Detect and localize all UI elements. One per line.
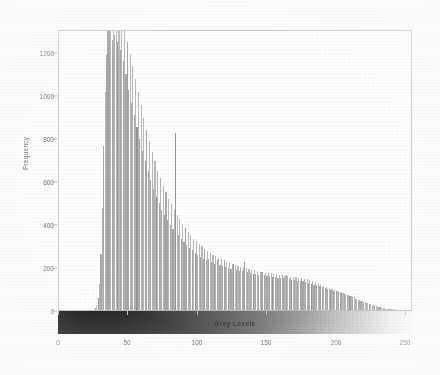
x-tick-mark-200 — [336, 311, 337, 315]
x-tick-label-100: 100 — [192, 339, 203, 346]
x-tick-label-200: 200 — [331, 339, 342, 346]
y-tick-label-0: 0 — [0, 308, 54, 315]
y-tick-mark-1200 — [52, 53, 57, 54]
x-tick-mark-0 — [58, 311, 59, 315]
histogram-figure: Frequency 0 200 400 600 800 1000 1200 Gr… — [0, 0, 440, 375]
y-tick-mark-200 — [52, 268, 57, 269]
x-tick-mark-150 — [266, 311, 267, 315]
y-tick-label-200: 200 — [0, 265, 54, 272]
y-tick-label-600: 600 — [0, 179, 54, 186]
y-tick-mark-1000 — [52, 96, 57, 97]
y-tick-mark-600 — [52, 182, 57, 183]
x-tick-mark-50 — [127, 311, 128, 315]
histogram-bars — [59, 31, 411, 310]
x-tick-label-250: 250 — [400, 339, 411, 346]
x-tick-mark-250 — [405, 311, 406, 315]
x-tick-mark-100 — [197, 311, 198, 315]
colorbar-label: Gray Levels — [58, 319, 412, 326]
x-tick-label-150: 150 — [261, 339, 272, 346]
gray-level-colorbar: Gray Levels — [58, 311, 412, 334]
y-tick-label-800: 800 — [0, 136, 54, 143]
y-tick-mark-800 — [52, 139, 57, 140]
y-tick-label-1200: 1200 — [0, 50, 54, 57]
x-tick-label-50: 50 — [123, 339, 130, 346]
y-tick-mark-0 — [52, 311, 57, 312]
y-tick-label-400: 400 — [0, 222, 54, 229]
y-tick-label-1000: 1000 — [0, 93, 54, 100]
x-tick-label-0: 0 — [56, 339, 60, 346]
plot-area — [58, 30, 412, 311]
y-tick-mark-400 — [52, 225, 57, 226]
